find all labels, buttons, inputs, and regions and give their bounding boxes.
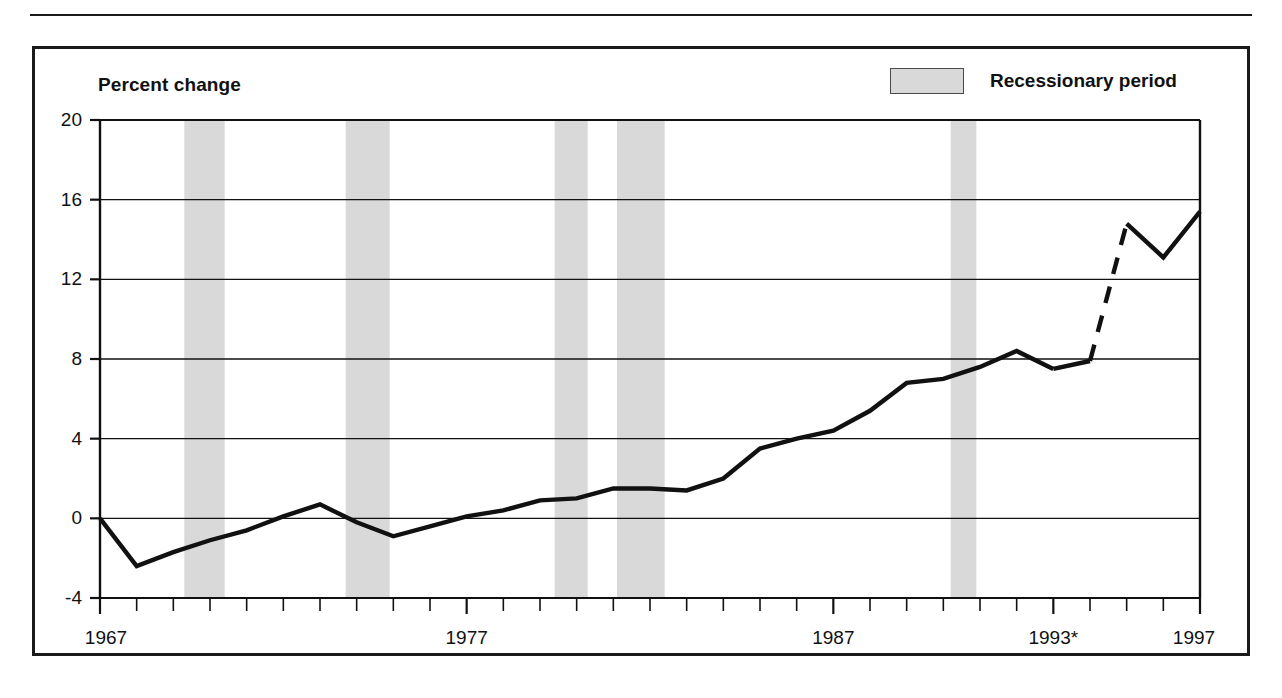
y-tick-label-12: 12 <box>61 268 82 289</box>
figure-root: Percent change Recessionary period -4048… <box>0 0 1282 698</box>
chart-plot-area: -4048121620 1967197719871993*1997 <box>0 0 1282 698</box>
series-line-2 <box>1090 224 1127 361</box>
y-tick-label-16: 16 <box>61 189 82 210</box>
y-tick-labels-group: -4048121620 <box>61 109 83 608</box>
x-tick-label-1993: 1993* <box>1028 627 1078 648</box>
y-tick-label-0: 0 <box>71 507 82 528</box>
series-line-1 <box>1053 361 1090 369</box>
x-tick-label-1967: 1967 <box>85 627 127 648</box>
x-tick-label-1977: 1977 <box>446 627 488 648</box>
x-tick-label-1997: 1997 <box>1173 627 1215 648</box>
y-tick-label-20: 20 <box>61 109 82 130</box>
x-tick-label-1987: 1987 <box>812 627 854 648</box>
series-line-3 <box>1127 212 1200 258</box>
y-tick-label-8: 8 <box>71 348 82 369</box>
x-tick-labels-group: 1967197719871993*1997 <box>85 627 1215 648</box>
y-tick-label-4: 4 <box>71 428 82 449</box>
y-tick-label--4: -4 <box>65 587 82 608</box>
